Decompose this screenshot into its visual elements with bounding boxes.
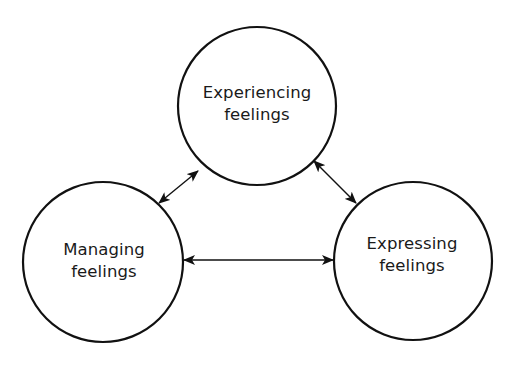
node-label-experiencing: Experiencing feelings — [203, 82, 312, 126]
node-label-experiencing-line2: feelings — [203, 104, 312, 126]
node-label-managing-line1: Managing — [63, 239, 145, 261]
node-label-expressing-line1: Expressing — [367, 233, 458, 255]
node-label-managing-line2: feelings — [63, 261, 145, 283]
node-label-managing: Managing feelings — [63, 239, 145, 283]
arrow-experiencing-expressing — [314, 161, 356, 203]
diagram-canvas — [0, 0, 509, 367]
node-label-expressing: Expressing feelings — [367, 233, 458, 277]
node-label-expressing-line2: feelings — [367, 255, 458, 277]
arrow-managing-experiencing — [159, 171, 198, 203]
node-label-experiencing-line1: Experiencing — [203, 82, 312, 104]
